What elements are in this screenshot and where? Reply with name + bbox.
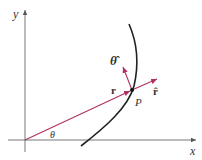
point-p-dot	[130, 88, 134, 92]
theta-hat-label: θ̂	[110, 54, 117, 67]
polar-unit-vectors-diagram: y x θ r P r̂ θ̂	[0, 0, 202, 160]
diagram-svg	[0, 0, 202, 160]
theta-angle-label: θ	[50, 130, 55, 140]
theta-hat-vector	[123, 67, 132, 90]
r-vector-label: r	[111, 85, 116, 96]
trajectory-curve	[81, 24, 137, 146]
position-vector-r	[25, 91, 130, 140]
point-p-label: P	[135, 97, 142, 108]
r-hat-label: r̂	[153, 86, 158, 97]
y-axis-label: y	[13, 8, 18, 20]
x-axis-label: x	[190, 145, 195, 157]
